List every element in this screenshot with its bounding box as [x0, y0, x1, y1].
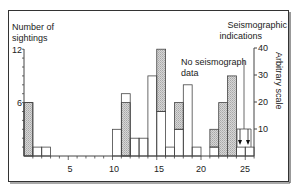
open-bar: [245, 147, 254, 156]
hatched-bar: [219, 103, 228, 156]
y-right-axis-label: Arbitrary scale: [274, 52, 284, 110]
open-bar: [192, 147, 201, 156]
open-bar: [210, 147, 219, 156]
y-right-tick-label-10: 10: [258, 124, 268, 134]
no-data-bracket: [237, 129, 251, 147]
y-right-tick-label-40: 40: [258, 43, 268, 53]
no-data-label-line1: No seismograph: [181, 57, 247, 67]
hatched-bar: [157, 49, 166, 111]
y-axis-label-line1: Number of: [12, 22, 55, 32]
open-bar: [183, 85, 192, 156]
y-axis-label-line2: sightings: [12, 33, 48, 43]
open-bar: [33, 147, 42, 156]
open-bar: [174, 129, 183, 156]
y-right-title-line2: indications: [219, 31, 262, 41]
open-bar: [166, 147, 175, 156]
x-tick-label-25: 25: [240, 164, 250, 174]
open-bar: [130, 138, 139, 156]
sightings-histogram: 12 6 Number of sightings 5 10 15 20 25 4…: [0, 0, 297, 193]
hatched-bar: [121, 103, 130, 156]
hatched-bar: [24, 103, 33, 156]
no-data-label-line2: data: [181, 68, 199, 78]
x-axis-ticks: [33, 156, 254, 160]
open-bar: [148, 76, 157, 156]
x-tick-label-5: 5: [67, 164, 72, 174]
y-tick-label-6: 6: [17, 98, 22, 108]
y-right-tick-label-30: 30: [258, 70, 268, 80]
y-right-title-line1: Seismographic: [227, 20, 287, 30]
open-bar: [42, 147, 51, 156]
x-tick-label-15: 15: [154, 164, 164, 174]
y-tick-label-12: 12: [12, 45, 22, 55]
x-tick-label-10: 10: [109, 164, 119, 174]
open-bar: [236, 147, 245, 156]
arrow-down-icon: [238, 140, 242, 145]
y-right-tick-label-20: 20: [258, 97, 268, 107]
open-bar: [157, 112, 166, 157]
arrow-down-icon: [246, 140, 250, 145]
hatched-bar: [228, 76, 237, 156]
x-tick-label-20: 20: [196, 164, 206, 174]
hatched-bar: [174, 103, 183, 130]
hatched-bar: [210, 129, 219, 147]
open-bar: [113, 129, 122, 156]
open-bar: [139, 138, 148, 156]
